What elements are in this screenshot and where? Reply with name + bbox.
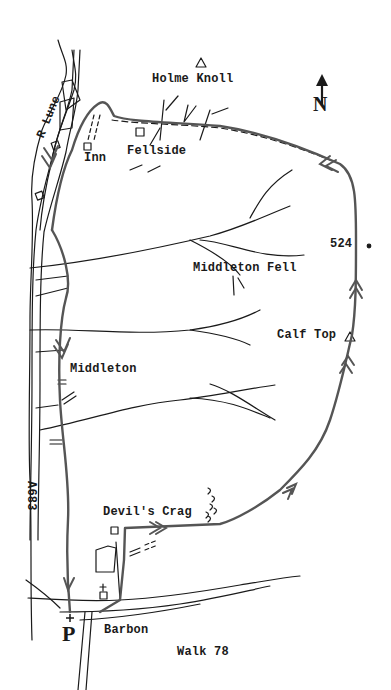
stream [150, 128, 160, 145]
label-devils-crag: Devil's Crag [103, 505, 192, 519]
woodland-barbon [96, 546, 116, 572]
track [88, 115, 94, 140]
road-barbon-3 [80, 604, 200, 620]
label-fellside: Fellside [127, 144, 186, 158]
map-title: Walk 78 [177, 645, 229, 659]
stream [166, 96, 178, 110]
label-middleton-fell: Middleton Fell [193, 261, 297, 275]
stream [160, 100, 164, 140]
road-barbon-south-1 [78, 612, 85, 690]
stream [250, 170, 292, 218]
spot-height-dot [367, 244, 371, 248]
lane-east [130, 548, 140, 556]
label-road-a683: A683 [24, 481, 38, 511]
stream [212, 108, 228, 114]
lane-ne [116, 542, 120, 600]
stream [233, 276, 234, 295]
stream [184, 105, 196, 122]
stream [238, 278, 244, 288]
label-middleton: Middleton [70, 362, 137, 376]
stream [40, 385, 275, 430]
stream [130, 165, 142, 170]
holme-knoll-triangle [196, 58, 206, 67]
route-line [52, 102, 356, 612]
label-calf-top: Calf Top [277, 328, 336, 342]
river-lune-east-bank [40, 50, 76, 230]
road-barbon-2 [60, 586, 270, 612]
label-barbon: Barbon [104, 623, 148, 637]
stream [190, 330, 250, 345]
lane-east [145, 540, 158, 550]
track [94, 115, 100, 140]
route-arrow [340, 356, 354, 373]
church [100, 592, 107, 599]
church-cross [100, 584, 106, 591]
route-line [52, 230, 70, 612]
label-holme-knoll: Holme Knoll [152, 72, 233, 86]
label-inn: Inn [84, 151, 106, 165]
parking-label: P [62, 621, 76, 647]
route-arrow [54, 338, 70, 358]
stream [30, 310, 260, 332]
crag-marks [206, 488, 217, 522]
north-label: N [313, 93, 328, 116]
inn-building [84, 143, 91, 150]
road-barbon-south-2 [86, 612, 92, 690]
building-tick [50, 440, 62, 444]
building [35, 191, 44, 200]
fellside-building [136, 128, 144, 136]
devils-crag-building [111, 527, 118, 534]
building-tick [62, 392, 76, 404]
stream [148, 166, 160, 172]
stream [200, 240, 304, 256]
label-spot-height: 524 [330, 237, 352, 251]
stream [190, 398, 270, 418]
